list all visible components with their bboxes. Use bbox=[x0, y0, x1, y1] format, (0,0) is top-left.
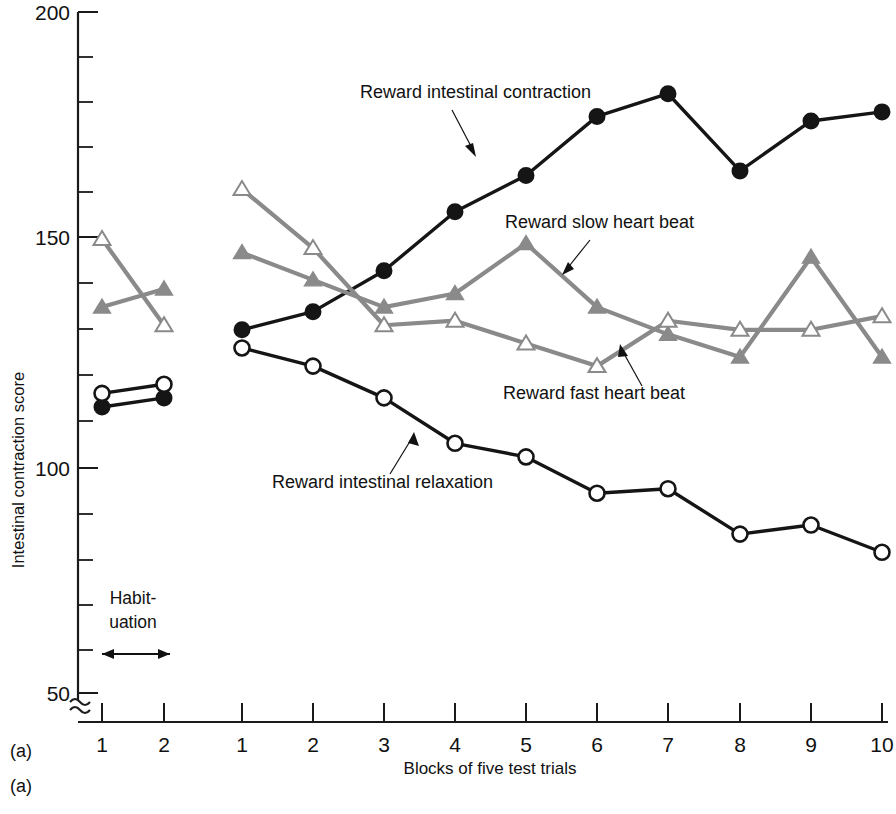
x-label-habituation-2: 2 bbox=[158, 733, 170, 756]
x-label-2: 2 bbox=[307, 733, 319, 756]
habituation-line-open-triangle bbox=[102, 239, 164, 325]
habituation-arrow-right-icon bbox=[158, 649, 170, 659]
axis-break-icon bbox=[70, 699, 90, 705]
habituation-arrow-left-icon bbox=[102, 649, 114, 659]
test-point-open-circle-1 bbox=[235, 340, 250, 355]
habituation-bracket: Habit- uation bbox=[102, 588, 170, 659]
test-point-open-circle-7 bbox=[661, 481, 676, 496]
test-point-filled-circle-1 bbox=[235, 322, 250, 337]
test-point-filled-circle-8 bbox=[733, 163, 748, 178]
y-tick-label-50: 50 bbox=[47, 682, 70, 705]
annotation-label-relaxation: Reward intestinal relaxation bbox=[272, 472, 493, 492]
x-label-3: 3 bbox=[378, 733, 390, 756]
test-line-open-circle bbox=[242, 348, 882, 552]
habituation-label-line2: uation bbox=[109, 612, 157, 632]
x-label-5: 5 bbox=[520, 733, 532, 756]
chart-figure: 200 150 100 50 Intestinal contraction sc… bbox=[0, 0, 896, 814]
x-label-habituation-1: 1 bbox=[96, 733, 108, 756]
y-axis: 200 150 100 50 Intestinal contraction sc… bbox=[9, 1, 98, 713]
test-point-filled-triangle-1 bbox=[234, 245, 251, 259]
annotation-label-fast-heart: Reward fast heart beat bbox=[503, 383, 685, 403]
test-point-filled-circle-4 bbox=[448, 204, 463, 219]
annotation-leader-relaxation bbox=[390, 438, 412, 474]
x-label-9: 9 bbox=[805, 733, 817, 756]
test-point-open-triangle-10 bbox=[874, 308, 891, 322]
x-label-1: 1 bbox=[236, 733, 248, 756]
test-point-filled-circle-2 bbox=[306, 304, 321, 319]
habituation-point-filled-triangle-2 bbox=[156, 281, 173, 295]
x-label-4: 4 bbox=[449, 733, 461, 756]
test-point-open-circle-8 bbox=[733, 527, 748, 542]
axis-break-icon-2 bbox=[70, 707, 90, 713]
y-axis-title: Intestinal contraction score bbox=[9, 372, 27, 568]
test-point-filled-triangle-9 bbox=[803, 249, 820, 263]
habituation-line-filled-circle bbox=[102, 398, 164, 407]
habituation-point-open-circle-1 bbox=[95, 386, 110, 401]
test-point-filled-circle-3 bbox=[377, 263, 392, 278]
test-point-open-circle-6 bbox=[590, 486, 605, 501]
panel-label-top: (a) bbox=[10, 741, 32, 761]
test-point-filled-triangle-5 bbox=[518, 236, 535, 250]
y-tick-label-200: 200 bbox=[35, 1, 70, 24]
y-tick-label-100: 100 bbox=[35, 457, 70, 480]
test-point-open-triangle-1 bbox=[234, 181, 251, 195]
test-line-filled-triangle bbox=[242, 244, 882, 358]
annotation-reward-intestinal-contraction: Reward intestinal contraction bbox=[360, 82, 591, 157]
annotation-arrow-contraction-icon bbox=[465, 143, 476, 157]
annotation-arrow-slow-heart-icon bbox=[562, 262, 574, 275]
test-point-filled-circle-6 bbox=[590, 109, 605, 124]
habituation-line-filled-triangle bbox=[102, 289, 164, 307]
test-point-open-circle-9 bbox=[804, 518, 819, 533]
test-point-filled-circle-10 bbox=[875, 104, 890, 119]
x-label-6: 6 bbox=[591, 733, 603, 756]
habituation-label-line1: Habit- bbox=[110, 588, 157, 608]
test-point-filled-circle-7 bbox=[661, 86, 676, 101]
x-label-8: 8 bbox=[734, 733, 746, 756]
test-point-filled-circle-9 bbox=[804, 113, 819, 128]
test-point-open-circle-4 bbox=[448, 436, 463, 451]
annotation-arrow-relaxation-icon bbox=[408, 432, 419, 446]
x-label-10: 10 bbox=[870, 733, 893, 756]
y-tick-label-150: 150 bbox=[35, 226, 70, 249]
x-axis: 1 2 1 2 3 4 5 6 7 8 9 10 Blocks of five … bbox=[78, 703, 894, 778]
habituation-point-open-circle-2 bbox=[157, 377, 172, 392]
chart-svg: 200 150 100 50 Intestinal contraction sc… bbox=[0, 0, 896, 814]
annotation-reward-fast-heart-beat: Reward fast heart beat bbox=[503, 344, 685, 403]
x-label-7: 7 bbox=[662, 733, 674, 756]
habituation-line-open-circle bbox=[102, 384, 164, 393]
panel-label-bottom: (a) bbox=[10, 776, 32, 796]
x-axis-title: Blocks of five test trials bbox=[404, 759, 577, 778]
test-point-open-circle-10 bbox=[875, 545, 890, 560]
test-point-open-circle-5 bbox=[519, 449, 534, 464]
annotation-label-contraction: Reward intestinal contraction bbox=[360, 82, 591, 102]
annotation-reward-slow-heart-beat: Reward slow heart beat bbox=[505, 212, 694, 275]
annotation-label-slow-heart: Reward slow heart beat bbox=[505, 212, 694, 232]
test-point-filled-circle-5 bbox=[519, 168, 534, 183]
test-point-open-circle-3 bbox=[377, 390, 392, 405]
test-point-open-circle-2 bbox=[306, 359, 321, 374]
